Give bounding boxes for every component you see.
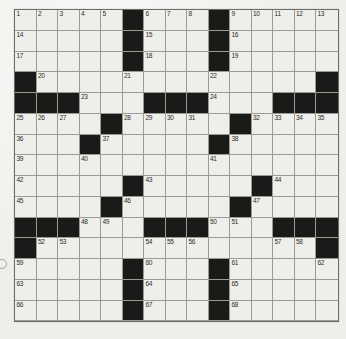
cell-r11c12[interactable] xyxy=(252,218,274,239)
cell-r11c4[interactable]: 48 xyxy=(80,218,102,239)
cell-r12c13[interactable]: 57 xyxy=(273,238,295,259)
cell-r1c12[interactable]: 10 xyxy=(252,10,274,31)
cell-r10c3[interactable] xyxy=(58,197,80,218)
cell-r11c11[interactable]: 51 xyxy=(230,218,252,239)
cell-r12c8[interactable]: 55 xyxy=(166,238,188,259)
cell-r2c1[interactable]: 14 xyxy=(15,31,37,52)
cell-r2c14[interactable] xyxy=(295,31,317,52)
cell-r5c10[interactable]: 24 xyxy=(209,93,231,114)
cell-r8c1[interactable]: 39 xyxy=(15,155,37,176)
cell-r7c8[interactable] xyxy=(166,135,188,156)
cell-r15c13[interactable] xyxy=(273,301,295,322)
cell-r4c12[interactable] xyxy=(252,72,274,93)
cell-r7c9[interactable] xyxy=(187,135,209,156)
cell-r7c14[interactable] xyxy=(295,135,317,156)
cell-r10c7[interactable] xyxy=(144,197,166,218)
cell-r12c4[interactable] xyxy=(80,238,102,259)
cell-r2c7[interactable]: 15 xyxy=(144,31,166,52)
cell-r15c7[interactable]: 67 xyxy=(144,301,166,322)
cell-r15c11[interactable]: 68 xyxy=(230,301,252,322)
cell-r3c11[interactable]: 19 xyxy=(230,52,252,73)
cell-r4c13[interactable] xyxy=(273,72,295,93)
cell-r14c12[interactable] xyxy=(252,280,274,301)
cell-r10c15[interactable] xyxy=(316,197,338,218)
cell-r14c14[interactable] xyxy=(295,280,317,301)
cell-r1c2[interactable]: 2 xyxy=(37,10,59,31)
cell-r10c2[interactable] xyxy=(37,197,59,218)
cell-r10c14[interactable] xyxy=(295,197,317,218)
cell-r11c10[interactable]: 50 xyxy=(209,218,231,239)
cell-r11c6[interactable] xyxy=(123,218,145,239)
cell-r2c2[interactable] xyxy=(37,31,59,52)
cell-r6c6[interactable]: 28 xyxy=(123,114,145,135)
cell-r4c5[interactable] xyxy=(101,72,123,93)
cell-r15c3[interactable] xyxy=(58,301,80,322)
cell-r8c15[interactable] xyxy=(316,155,338,176)
cell-r4c11[interactable] xyxy=(230,72,252,93)
cell-r13c14[interactable] xyxy=(295,259,317,280)
cell-r12c2[interactable]: 52 xyxy=(37,238,59,259)
cell-r4c14[interactable] xyxy=(295,72,317,93)
cell-r3c13[interactable] xyxy=(273,52,295,73)
cell-r2c15[interactable] xyxy=(316,31,338,52)
cell-r13c9[interactable] xyxy=(187,259,209,280)
cell-r5c5[interactable] xyxy=(101,93,123,114)
cell-r12c11[interactable] xyxy=(230,238,252,259)
cell-r8c10[interactable]: 41 xyxy=(209,155,231,176)
cell-r7c15[interactable] xyxy=(316,135,338,156)
cell-r8c3[interactable] xyxy=(58,155,80,176)
cell-r6c14[interactable]: 34 xyxy=(295,114,317,135)
cell-r14c9[interactable] xyxy=(187,280,209,301)
cell-r13c5[interactable] xyxy=(101,259,123,280)
cell-r1c3[interactable]: 3 xyxy=(58,10,80,31)
cell-r15c14[interactable] xyxy=(295,301,317,322)
cell-r7c7[interactable] xyxy=(144,135,166,156)
cell-r9c4[interactable] xyxy=(80,176,102,197)
cell-r6c13[interactable]: 33 xyxy=(273,114,295,135)
cell-r3c8[interactable] xyxy=(166,52,188,73)
cell-r6c15[interactable]: 35 xyxy=(316,114,338,135)
cell-r13c11[interactable]: 61 xyxy=(230,259,252,280)
cell-r3c9[interactable] xyxy=(187,52,209,73)
cell-r4c2[interactable]: 20 xyxy=(37,72,59,93)
cell-r12c6[interactable] xyxy=(123,238,145,259)
cell-r12c3[interactable]: 53 xyxy=(58,238,80,259)
cell-r1c4[interactable]: 4 xyxy=(80,10,102,31)
cell-r10c9[interactable] xyxy=(187,197,209,218)
cell-r14c7[interactable]: 64 xyxy=(144,280,166,301)
cell-r8c6[interactable] xyxy=(123,155,145,176)
cell-r7c1[interactable]: 36 xyxy=(15,135,37,156)
cell-r7c6[interactable] xyxy=(123,135,145,156)
cell-r8c7[interactable] xyxy=(144,155,166,176)
cell-r8c9[interactable] xyxy=(187,155,209,176)
cell-r2c5[interactable] xyxy=(101,31,123,52)
cell-r14c11[interactable]: 65 xyxy=(230,280,252,301)
cell-r1c9[interactable]: 8 xyxy=(187,10,209,31)
cell-r2c13[interactable] xyxy=(273,31,295,52)
cell-r4c9[interactable] xyxy=(187,72,209,93)
cell-r2c8[interactable] xyxy=(166,31,188,52)
cell-r1c11[interactable]: 9 xyxy=(230,10,252,31)
cell-r7c12[interactable] xyxy=(252,135,274,156)
cell-r2c11[interactable]: 16 xyxy=(230,31,252,52)
cell-r10c10[interactable] xyxy=(209,197,231,218)
cell-r12c7[interactable]: 54 xyxy=(144,238,166,259)
cell-r9c1[interactable]: 42 xyxy=(15,176,37,197)
cell-r9c13[interactable]: 44 xyxy=(273,176,295,197)
cell-r3c5[interactable] xyxy=(101,52,123,73)
cell-r1c13[interactable]: 11 xyxy=(273,10,295,31)
cell-r7c3[interactable] xyxy=(58,135,80,156)
cell-r3c15[interactable] xyxy=(316,52,338,73)
cell-r9c2[interactable] xyxy=(37,176,59,197)
cell-r9c14[interactable] xyxy=(295,176,317,197)
cell-r9c7[interactable]: 43 xyxy=(144,176,166,197)
cell-r4c7[interactable] xyxy=(144,72,166,93)
cell-r6c4[interactable] xyxy=(80,114,102,135)
cell-r11c5[interactable]: 49 xyxy=(101,218,123,239)
cell-r3c1[interactable]: 17 xyxy=(15,52,37,73)
cell-r4c8[interactable] xyxy=(166,72,188,93)
cell-r4c4[interactable] xyxy=(80,72,102,93)
cell-r4c10[interactable]: 22 xyxy=(209,72,231,93)
cell-r15c8[interactable] xyxy=(166,301,188,322)
cell-r8c14[interactable] xyxy=(295,155,317,176)
